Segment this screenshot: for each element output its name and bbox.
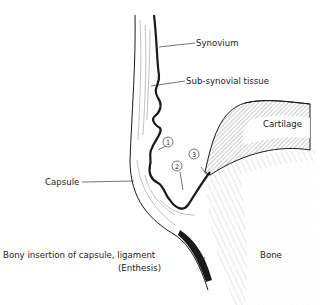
marker-3: 3 — [189, 149, 199, 159]
label-enthesis-paren: (Enthesis) — [118, 263, 161, 273]
svg-text:2: 2 — [175, 163, 179, 171]
joint-diagram: 1 2 3 Synovium Sub-synovial tissue Carti… — [0, 0, 326, 305]
label-sub-synovial-tissue: Sub-synovial tissue — [186, 76, 269, 86]
svg-text:1: 1 — [166, 139, 170, 147]
svg-text:3: 3 — [192, 151, 196, 159]
label-capsule: Capsule — [45, 177, 79, 187]
marker-1: 1 — [163, 137, 173, 147]
bone-region — [205, 150, 326, 305]
label-bone: Bone — [260, 250, 282, 260]
label-enthesis: Bony insertion of capsule, ligament — [3, 250, 156, 260]
marker-2: 2 — [172, 161, 182, 171]
label-cartilage: Cartilage — [263, 119, 302, 129]
label-synovium: Synovium — [196, 38, 239, 48]
